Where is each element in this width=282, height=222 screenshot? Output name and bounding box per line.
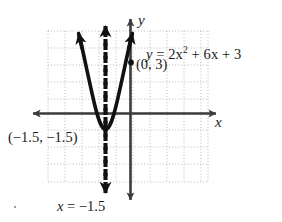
corner-speck [14, 206, 16, 208]
quadratic-graph-figure: y = 2x2 + 6x + 3 (0, 3) (−1.5, −1.5) x =… [0, 0, 282, 222]
aos-value: = −1.5 [63, 198, 105, 214]
vertex-label: (−1.5, −1.5) [8, 129, 78, 146]
parabola-left-arrow [79, 34, 82, 49]
y-intercept-marker [128, 60, 134, 66]
x-axis-label: x [215, 114, 222, 131]
graph-canvas [0, 0, 282, 222]
equation-tail: + 6x + 3 [188, 46, 242, 62]
axis-of-symmetry-label: x = −1.5 [57, 198, 105, 215]
y-intercept-label: (0, 3) [136, 56, 167, 73]
y-axis-label: y [138, 12, 145, 29]
